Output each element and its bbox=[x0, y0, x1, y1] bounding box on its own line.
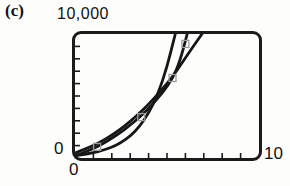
plot-canvas bbox=[75, 34, 259, 158]
panel-label: (c) bbox=[5, 1, 24, 21]
figure-panel: (c) 10,000 0 0 10 bbox=[0, 0, 290, 186]
x-axis-min-label: 0 bbox=[69, 160, 78, 180]
x-axis-max-label: 10 bbox=[264, 144, 283, 164]
calculator-window bbox=[72, 31, 262, 161]
y-axis-max-label: 10,000 bbox=[57, 5, 109, 23]
y-axis-min-label: 0 bbox=[54, 139, 63, 159]
